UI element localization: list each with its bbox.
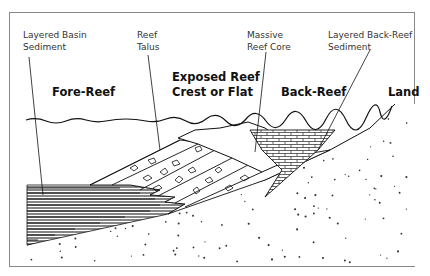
reef-cross-section-diagram: Layered Basin Sediment Reef Talus Massiv… [0, 0, 430, 276]
zone-fore-reef: Fore-Reef [52, 85, 116, 99]
zone-exposed-reef-crest: Exposed Reef Crest or Flat [172, 70, 264, 99]
zone-land: Land [388, 85, 420, 99]
zone-back-reef: Back-Reef [281, 85, 347, 99]
